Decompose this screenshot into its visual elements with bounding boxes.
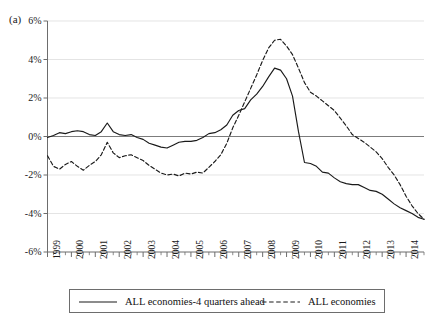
x-tick-label: 2004 xyxy=(171,240,181,259)
legend-label-solid: ALL economies-4 quarters ahead xyxy=(125,296,265,308)
x-tick-label: 2013 xyxy=(386,240,396,259)
y-tick-label: 2% xyxy=(28,92,41,103)
chart-figure: (a) 6%4%2%0%-2%-4%-6% 199920002001200220… xyxy=(0,0,437,324)
y-tick-label: 0% xyxy=(28,131,41,142)
x-tick-label: 2000 xyxy=(75,240,85,259)
y-tick-label: 4% xyxy=(28,54,41,65)
x-tick-label: 2007 xyxy=(243,240,253,259)
y-tick-label: -6% xyxy=(25,246,42,257)
x-tick-label: 2010 xyxy=(314,240,324,259)
x-tick-label: 1999 xyxy=(52,240,62,259)
legend-entry-solid: ALL economies-4 quarters ahead xyxy=(79,290,265,314)
x-tick-label: 2006 xyxy=(219,240,229,259)
x-tick-label: 2011 xyxy=(338,240,348,259)
y-tick-label: 6% xyxy=(28,15,41,26)
x-tick-label: 2005 xyxy=(195,240,205,259)
solid-line-swatch-icon xyxy=(79,297,117,307)
gridlines-group xyxy=(48,21,425,214)
x-tick-label: 2014 xyxy=(410,240,420,259)
tick-marks-group xyxy=(44,21,425,257)
series-line-1 xyxy=(48,68,425,219)
y-tick-label: -4% xyxy=(25,208,42,219)
data-series-group xyxy=(48,39,425,219)
dashed-line-swatch-icon xyxy=(262,297,300,307)
x-tick-label: 2008 xyxy=(267,240,277,259)
x-tick-label: 2012 xyxy=(362,240,372,259)
legend-entry-dashed: ALL economies xyxy=(262,290,376,314)
legend-label-dashed: ALL economies xyxy=(308,296,376,308)
x-tick-label: 2003 xyxy=(147,240,157,259)
x-tick-label: 2002 xyxy=(123,240,133,259)
line-chart-plot xyxy=(0,0,437,324)
x-tick-label: 2009 xyxy=(291,240,301,259)
x-tick-label: 2001 xyxy=(99,240,109,259)
chart-legend: ALL economies-4 quarters ahead ALL econo… xyxy=(69,289,385,313)
y-tick-label: -2% xyxy=(25,169,42,180)
series-line-2 xyxy=(48,39,425,219)
